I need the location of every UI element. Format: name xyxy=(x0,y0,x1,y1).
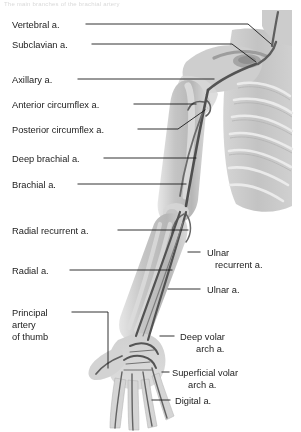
label-principal-artery-of-thumb: Principal artery of thumb xyxy=(12,308,48,342)
anatomy-figure: The main branches of the brachial artery xyxy=(0,0,301,432)
label-anterior-circumflex: Anterior circumflex a. xyxy=(12,100,99,110)
label-radial-recurrent: Radial recurrent a. xyxy=(12,226,88,236)
labels-left-group: Vertebral a. Subclavian a. Axillary a. A… xyxy=(12,20,104,276)
label-brachial: Brachial a. xyxy=(12,180,56,190)
label-superficial-volar-arch-line-1: Superficial volar xyxy=(172,368,238,378)
label-axillary: Axillary a. xyxy=(12,75,52,85)
label-thumb-line-1: Principal xyxy=(12,308,48,318)
artery-diagram-illustration: Vertebral a. Subclavian a. Axillary a. A… xyxy=(0,0,301,432)
label-digital: Digital a. xyxy=(175,396,211,406)
label-posterior-circumflex: Posterior circumflex a. xyxy=(12,125,104,135)
label-thumb-line-2: artery xyxy=(12,320,36,330)
label-superficial-volar-arch-line-2: arch a. xyxy=(188,380,216,390)
label-deep-volar-arch-line-2: arch a. xyxy=(196,344,224,354)
label-ulnar-recurrent-line-2: recurrent a. xyxy=(215,260,263,270)
anatomy-artwork xyxy=(89,10,292,430)
label-subclavian: Subclavian a. xyxy=(12,40,68,50)
label-vertebral: Vertebral a. xyxy=(12,20,60,30)
label-ulnar: Ulnar a. xyxy=(207,285,240,295)
fingers xyxy=(110,373,174,430)
label-deep-volar-arch-line-1: Deep volar xyxy=(180,332,225,342)
label-radial: Radial a. xyxy=(12,266,49,276)
labels-right-group: Ulnar recurrent a. Ulnar a. Deep volar a… xyxy=(172,248,263,406)
label-deep-brachial: Deep brachial a. xyxy=(12,154,80,164)
label-ulnar-recurrent-line-1: Ulnar xyxy=(207,248,229,258)
label-thumb-line-3: of thumb xyxy=(12,332,48,342)
figure-caption-top: The main branches of the brachial artery xyxy=(0,0,301,9)
